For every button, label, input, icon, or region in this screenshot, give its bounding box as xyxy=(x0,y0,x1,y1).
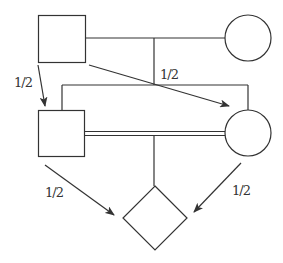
son-square xyxy=(39,111,85,157)
label-gf-to-son: 1/2 xyxy=(14,76,32,89)
pedigree-diagram: 1/2 1/2 1/2 1/2 xyxy=(0,0,283,263)
grandmother-circle xyxy=(225,15,271,61)
label-daughter-to-offspring: 1/2 xyxy=(232,184,250,197)
arrow-gf-to-son xyxy=(38,65,45,106)
offspring-diamond xyxy=(123,186,187,250)
label-gf-to-daughter: 1/2 xyxy=(160,68,178,81)
daughter-circle xyxy=(225,110,271,156)
grandfather-square xyxy=(39,16,86,63)
pedigree-svg xyxy=(0,0,283,263)
label-son-to-offspring: 1/2 xyxy=(45,186,63,199)
